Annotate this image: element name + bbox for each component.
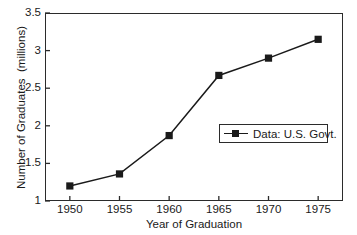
x-tick-label: 1955 [97, 203, 143, 215]
legend: Data: U.S. Govt. [219, 124, 328, 143]
series-markers-data-us-govt [66, 36, 322, 190]
y-axis-title: Number of Graduates (millions) [15, 6, 28, 210]
x-tick-label: 1970 [246, 203, 292, 215]
legend-marker-icon [224, 128, 248, 139]
x-tick-label: 1975 [295, 203, 341, 215]
x-tick-label: 1960 [146, 203, 192, 215]
legend-label: Data: U.S. Govt. [248, 128, 337, 140]
data-point-marker [265, 55, 272, 62]
data-point-marker [215, 72, 222, 79]
x-axis-ticks [70, 196, 318, 201]
chart-figure: 11.522.533.5 195019551960196519701975 Ye… [0, 0, 357, 235]
plot-svg [0, 0, 357, 235]
data-point-marker [66, 182, 73, 189]
x-tick-label: 1950 [47, 203, 93, 215]
data-point-marker [166, 132, 173, 139]
data-point-marker [315, 36, 322, 43]
x-tick-label: 1965 [196, 203, 242, 215]
data-point-marker [116, 170, 123, 177]
x-axis-title: Year of Graduation [45, 218, 343, 231]
y-axis-ticks [45, 13, 50, 201]
series-line-data-us-govt [70, 39, 318, 186]
